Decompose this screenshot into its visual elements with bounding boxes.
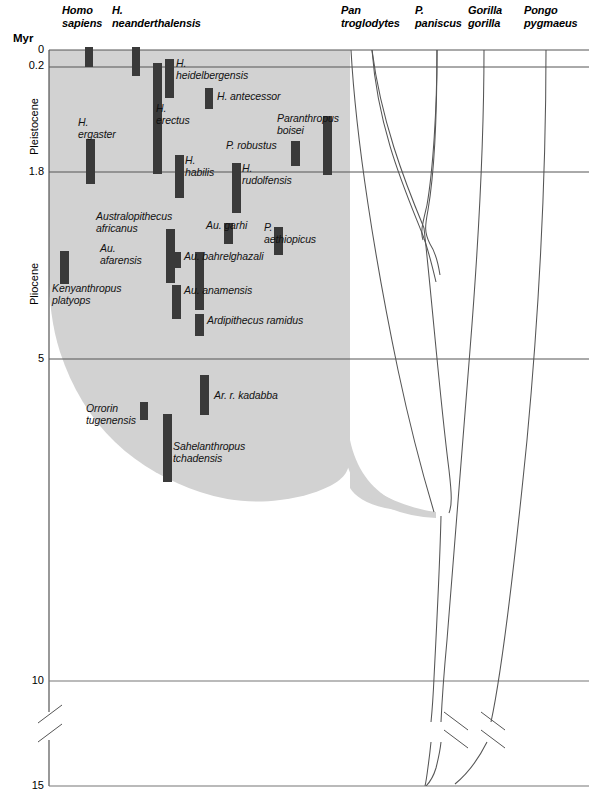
lineage-hominin	[351, 50, 434, 512]
phylogeny-lineages	[351, 50, 546, 786]
hominin-timeline-figure: Homosapiens H.neanderthalensis Pantroglo…	[0, 0, 597, 809]
bar-kenyanthropus-platyops	[60, 251, 69, 284]
boisei-line1: Paranthropus	[277, 112, 339, 124]
sahelanthropus-line1: Sahelanthropus	[173, 440, 245, 452]
tick-label-15: 15	[4, 779, 44, 791]
erectus-line2: erectus	[156, 114, 190, 126]
lineage-gorilla	[441, 50, 484, 722]
lineage-pan-troglodytes	[372, 50, 424, 228]
aethiopicus-line2: aethiopicus	[264, 233, 316, 245]
species-label-h-heidelbergensis: H.heidelbergensis	[176, 58, 248, 81]
species-label-paranthropus-boisei: Paranthropusboisei	[277, 113, 339, 136]
lineage-homininae-stem	[434, 516, 441, 678]
lineage-pan-node-stem-a	[430, 244, 440, 275]
species-label-p-aethiopicus: P.aethiopicus	[264, 222, 316, 245]
column-header-homo-sapiens: Homosapiens	[62, 4, 102, 29]
column-header-pongo-line2: pygmaeus	[524, 17, 578, 29]
species-label-kenyanthropus-platyops: Kenyanthropusplatyops	[52, 283, 121, 306]
bar-orrorin-tugenensis	[140, 402, 148, 420]
orrorin-line2: tugenensis	[86, 414, 136, 426]
lineage-pongo-lower	[455, 742, 487, 784]
column-header-pongo-pygmaeus: Pongopygmaeus	[524, 4, 578, 29]
bar-h-habilis	[175, 155, 184, 198]
species-label-h-habilis: H.habilis	[185, 155, 214, 178]
species-label-australopithecus-africanus: Australopithecusafricanus	[96, 211, 172, 234]
species-label-h-erectus: H.erectus	[156, 103, 190, 126]
erectus-line1: H.	[156, 102, 166, 114]
species-label-au-bahrelghazali: Au. bahrelghazali	[184, 251, 263, 263]
column-header-p-paniscus: P.paniscus	[415, 4, 462, 29]
bar-ardipithecus-ramidus	[195, 314, 204, 336]
species-label-sahelanthropus-tchadensis: Sahelanthropustchadensis	[173, 441, 245, 464]
heidelbergensis-line1: H.	[176, 57, 186, 69]
lineage-pan-combined	[424, 228, 451, 513]
bar-h-neanderthalensis	[132, 47, 140, 76]
column-header-homo-sapiens-line1: Homo	[62, 4, 93, 16]
species-label-au-garhi: Au. garhi	[206, 220, 247, 232]
tick-label-0.2: 0.2	[4, 59, 44, 71]
aethiopicus-line1: P.	[264, 221, 272, 233]
rudolfensis-line2: rudolfensis	[242, 174, 292, 186]
column-header-h-neanderthalensis: H.neanderthalensis	[112, 4, 201, 29]
platyops-line2: platyops	[52, 294, 90, 306]
column-header-pan-line1: Pan	[341, 4, 361, 16]
column-header-neanderthal-line2: neanderthalensis	[112, 17, 201, 29]
column-header-neanderthal-line1: H.	[112, 4, 123, 16]
species-label-h-rudolfensis: H.rudolfensis	[242, 163, 292, 186]
bar-h-ergaster	[86, 139, 95, 184]
afarensis-line1: Au.	[100, 242, 115, 254]
column-header-pan-line2: troglodytes	[341, 17, 400, 29]
tick-label-5: 5	[4, 352, 44, 364]
ergaster-line1: H.	[78, 116, 88, 128]
habilis-line1: H.	[185, 154, 195, 166]
bar-homo-sapiens	[85, 47, 93, 67]
species-label-h-antecessor: H. antecessor	[217, 91, 280, 103]
bar-h-rudolfensis	[232, 163, 241, 213]
bar-au-anamensis	[172, 285, 181, 319]
column-header-paniscus-line2: paniscus	[415, 17, 462, 29]
bar-au-bahrelghazali	[173, 252, 181, 268]
orrorin-line1: Orrorin	[86, 402, 118, 414]
species-label-ardipithecus-ramidus: Ardipithecus ramidus	[207, 315, 303, 327]
species-label-au-afarensis: Au.afarensis	[100, 243, 142, 266]
boisei-line2: boisei	[277, 124, 304, 136]
epoch-label-pleistocene: Pleistocene	[28, 98, 40, 155]
afarensis-line2: afarensis	[100, 254, 142, 266]
lineage-break-marks	[444, 712, 505, 748]
bar-h-antecessor	[205, 88, 213, 109]
species-label-h-ergaster: H.ergaster	[78, 117, 116, 140]
lineage-p-paniscus-upper	[426, 50, 437, 244]
species-label-p-robustus: P. robustus	[226, 140, 277, 152]
heidelbergensis-line2: heidelbergensis	[176, 69, 248, 81]
tick-label-0: 0	[4, 43, 44, 55]
bar-ar-r-kadabba	[200, 375, 209, 415]
species-label-ar-r-kadabba: Ar. r. kadabba	[214, 390, 278, 402]
bar-h-heidelbergensis	[165, 59, 174, 98]
ergaster-line2: ergaster	[78, 128, 116, 140]
column-header-paniscus-line1: P.	[415, 4, 424, 16]
lineage-pongo	[491, 50, 546, 722]
species-label-orrorin-tugenensis: Orrorintugenensis	[86, 403, 136, 426]
column-header-gorilla-line2: gorilla	[468, 17, 500, 29]
sahelanthropus-line2: tchadensis	[173, 452, 222, 464]
rudolfensis-line1: H.	[242, 162, 252, 174]
tick-label-10: 10	[4, 674, 44, 686]
lineage-homininae-stem-c	[425, 742, 431, 786]
habilis-line2: habilis	[185, 166, 214, 178]
column-header-pan-troglodytes: Pantroglodytes	[341, 4, 400, 29]
column-header-homo-sapiens-line2: sapiens	[62, 17, 102, 29]
platyops-line1: Kenyanthropus	[52, 282, 121, 294]
axis-break-marks	[38, 705, 62, 742]
column-header-pongo-line1: Pongo	[524, 4, 558, 16]
bar-sahelanthropus-tchadensis	[163, 414, 172, 482]
africanus-line1: Australopithecus	[96, 210, 172, 222]
tick-label-1.8: 1.8	[4, 165, 44, 177]
column-header-gorilla-line1: Gorilla	[468, 4, 502, 16]
species-label-au-anamensis: Au. anamensis	[184, 285, 252, 297]
bar-p-robustus	[291, 141, 300, 166]
africanus-line2: africanus	[96, 222, 138, 234]
epoch-label-pliocene: Pliocene	[28, 263, 40, 305]
column-header-gorilla-gorilla: Gorillagorilla	[468, 4, 502, 29]
lineage-homininae-stem-b	[431, 678, 434, 722]
